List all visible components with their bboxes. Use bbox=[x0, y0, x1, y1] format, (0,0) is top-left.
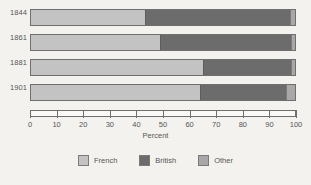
legend: FrenchBritishOther bbox=[0, 155, 311, 166]
bar-segment-other bbox=[291, 35, 295, 50]
legend-swatch-icon bbox=[198, 155, 209, 166]
legend-label: British bbox=[155, 156, 176, 165]
bar-row bbox=[30, 59, 296, 76]
bar-segment-british bbox=[203, 60, 291, 75]
x-axis-tick bbox=[163, 110, 164, 118]
bar-row bbox=[30, 34, 296, 51]
bar-segment-other bbox=[291, 60, 295, 75]
y-axis-tick-label: 1844 bbox=[2, 8, 27, 17]
x-axis-tick-label: 90 bbox=[265, 120, 273, 129]
x-axis-tick-label: 60 bbox=[185, 120, 193, 129]
x-axis-tick bbox=[296, 110, 297, 118]
stacked-bar-chart: 1844 1861 1881 1901 01020304050607080901… bbox=[0, 0, 311, 185]
bar-segment-french bbox=[31, 10, 145, 25]
y-axis-tick-label: 1881 bbox=[2, 58, 27, 67]
x-axis-tick bbox=[136, 110, 137, 118]
x-axis-tick-label: 100 bbox=[290, 120, 303, 129]
plot-area bbox=[30, 6, 296, 108]
x-axis-tick-label: 80 bbox=[239, 120, 247, 129]
legend-item[interactable]: British bbox=[139, 155, 176, 166]
legend-item[interactable]: Other bbox=[198, 155, 233, 166]
legend-swatch-icon bbox=[78, 155, 89, 166]
legend-swatch-icon bbox=[139, 155, 150, 166]
x-axis-tick bbox=[216, 110, 217, 118]
x-axis-title: Percent bbox=[0, 131, 311, 140]
bar-segment-british bbox=[200, 85, 286, 100]
x-axis-tick bbox=[30, 110, 31, 118]
bar-segment-other bbox=[286, 85, 295, 100]
x-axis-tick bbox=[83, 110, 84, 118]
legend-item[interactable]: French bbox=[78, 155, 117, 166]
x-axis-tick-label: 50 bbox=[159, 120, 167, 129]
x-axis-tick bbox=[190, 110, 191, 118]
x-axis-tick-label: 30 bbox=[106, 120, 114, 129]
bar-segment-french bbox=[31, 85, 200, 100]
x-axis-tick-label: 20 bbox=[79, 120, 87, 129]
y-axis-tick-label: 1861 bbox=[2, 33, 27, 42]
bar-segment-other bbox=[290, 10, 295, 25]
x-axis-tick-label: 10 bbox=[52, 120, 60, 129]
x-axis-tick bbox=[243, 110, 244, 118]
x-axis-tick-label: 0 bbox=[28, 120, 32, 129]
bar-segment-british bbox=[145, 10, 290, 25]
x-axis-tick bbox=[110, 110, 111, 118]
legend-label: French bbox=[94, 156, 117, 165]
bar-segment-british bbox=[160, 35, 291, 50]
x-axis-tick bbox=[57, 110, 58, 118]
y-axis-tick-label: 1901 bbox=[2, 83, 27, 92]
x-axis-tick-label: 40 bbox=[132, 120, 140, 129]
bar-segment-french bbox=[31, 35, 160, 50]
x-axis-tick bbox=[269, 110, 270, 118]
bar-segment-french bbox=[31, 60, 203, 75]
bar-row bbox=[30, 9, 296, 26]
bar-row bbox=[30, 84, 296, 101]
x-axis-tick-label: 70 bbox=[212, 120, 220, 129]
legend-label: Other bbox=[214, 156, 233, 165]
